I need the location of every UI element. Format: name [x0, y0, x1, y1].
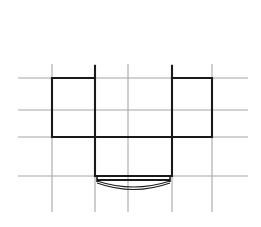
technical-drawing-svg — [0, 0, 261, 227]
drawing-canvas — [0, 0, 261, 227]
canvas-background — [0, 0, 261, 227]
